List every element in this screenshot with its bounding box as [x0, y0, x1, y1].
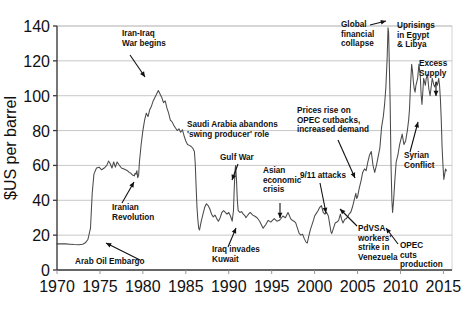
y-tick-label: 140 — [23, 18, 50, 35]
x-tick-label: 2015 — [426, 278, 462, 295]
x-tick-label: 1975 — [82, 278, 118, 295]
annotation-saudi-arabia-swing-producer: Saudi Arabia abandons'swing producer' ro… — [187, 120, 278, 139]
annotation-label: ExcessSupply — [419, 59, 448, 78]
annotation-label: 9/11 attacks — [300, 171, 346, 180]
x-tick-label: 1985 — [168, 278, 204, 295]
annotation-label: Gulf War — [220, 153, 255, 162]
x-tick-label: 1995 — [254, 278, 290, 295]
x-tick-label: 2010 — [383, 278, 419, 295]
y-tick-label: 20 — [32, 227, 50, 244]
y-tick-label: 0 — [41, 262, 50, 279]
y-axis-label: $US per barrel — [2, 96, 19, 200]
y-tick-label: 120 — [23, 53, 50, 70]
y-tick-label: 80 — [32, 123, 50, 140]
y-tick-label: 100 — [23, 88, 50, 105]
oil-price-chart: 020406080100120140 197019751980198519901… — [0, 0, 470, 309]
chart-canvas: 020406080100120140 197019751980198519901… — [0, 0, 470, 309]
x-tick-label: 1990 — [211, 278, 247, 295]
annotation-label: Arab Oil Embargo — [75, 257, 145, 266]
annotation-label: Saudi Arabia abandons'swing producer' ro… — [187, 120, 278, 139]
x-tick-label: 1970 — [39, 278, 75, 295]
y-tick-label: 40 — [32, 192, 50, 209]
x-tick-label: 1980 — [125, 278, 161, 295]
y-axis-title: $US per barrel — [2, 96, 19, 200]
y-tick-label: 60 — [32, 157, 50, 174]
x-tick-label: 2005 — [340, 278, 376, 295]
x-tick-label: 2000 — [297, 278, 333, 295]
